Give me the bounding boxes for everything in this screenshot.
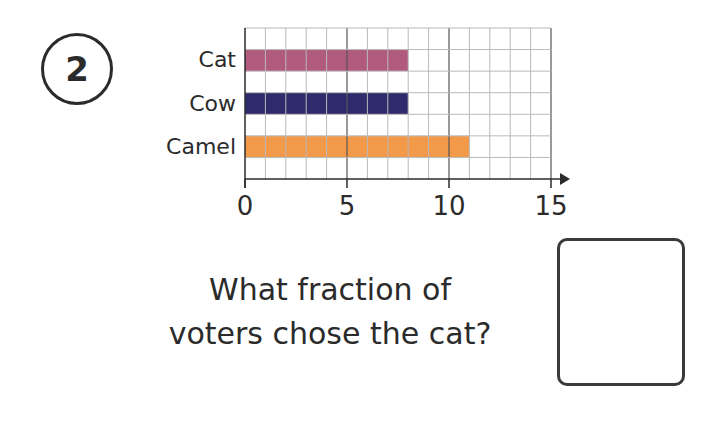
x-tick-label: 15 [534,192,567,220]
question-text: What fraction of voters chose the cat? [120,268,540,356]
row-label-cat: Cat [199,49,236,71]
answer-box[interactable] [557,238,685,386]
x-tick-label: 5 [339,192,356,220]
bar-camel [245,136,469,158]
row-label-camel: Camel [166,136,236,158]
row-label-cow: Cow [189,93,236,115]
chart-plot [0,0,717,240]
question-line-2: voters chose the cat? [120,312,540,356]
x-tick-label: 0 [237,192,254,220]
question-line-1: What fraction of [120,268,540,312]
x-tick-label: 10 [432,192,465,220]
bar-chart: CatCowCamel 051015 [0,0,717,240]
